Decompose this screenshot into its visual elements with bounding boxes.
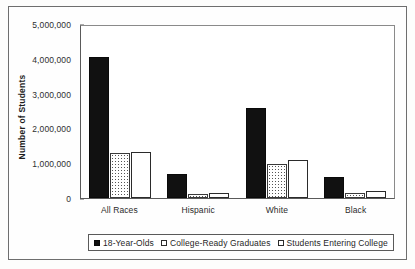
x-axis-tick-label: White bbox=[238, 205, 317, 215]
y-axis-tick-label: 5,000,000 bbox=[32, 20, 71, 30]
legend-item: Students Entering College bbox=[278, 238, 388, 248]
plot-area bbox=[80, 25, 395, 199]
y-axis-tick-labels: 5,000,0004,000,0003,000,0002,000,0001,00… bbox=[0, 25, 76, 199]
y-axis-tick-label: 4,000,000 bbox=[32, 55, 71, 65]
bar bbox=[89, 57, 109, 198]
bar bbox=[324, 177, 344, 198]
legend-swatch-icon bbox=[94, 240, 100, 246]
bar bbox=[345, 193, 365, 198]
y-axis-tick-label: 0 bbox=[66, 194, 71, 204]
x-axis-tick-labels: All RacesHispanicWhiteBlack bbox=[80, 205, 395, 215]
legend-label: 18-Year-Olds bbox=[103, 238, 154, 248]
chart-legend: 18-Year-OldsCollege-Ready GraduatesStude… bbox=[88, 234, 394, 251]
bar bbox=[366, 191, 386, 198]
x-axis-tick-label: Black bbox=[316, 205, 395, 215]
bar bbox=[110, 153, 130, 198]
legend-swatch-icon bbox=[278, 240, 284, 246]
bar bbox=[267, 164, 287, 198]
legend-label: College-Ready Graduates bbox=[170, 238, 271, 248]
bar-group bbox=[316, 26, 394, 198]
bar-group bbox=[238, 26, 316, 198]
legend-label: Students Entering College bbox=[287, 238, 388, 248]
legend-item: 18-Year-Olds bbox=[94, 238, 154, 248]
bar bbox=[246, 108, 266, 198]
bar bbox=[131, 152, 151, 198]
x-axis-tick-label: All Races bbox=[80, 205, 159, 215]
legend-item: College-Ready Graduates bbox=[161, 238, 271, 248]
bar bbox=[288, 160, 308, 198]
x-axis-tick-label: Hispanic bbox=[159, 205, 238, 215]
bar-group bbox=[81, 26, 159, 198]
chart-figure: Number of Students 5,000,0004,000,0003,0… bbox=[0, 0, 415, 269]
y-axis-tick-label: 3,000,000 bbox=[32, 90, 71, 100]
y-axis-tick-label: 1,000,000 bbox=[32, 159, 71, 169]
bar bbox=[167, 174, 187, 198]
bar bbox=[188, 194, 208, 198]
bar-groups bbox=[81, 26, 394, 198]
y-axis-tick-label: 2,000,000 bbox=[32, 124, 71, 134]
bar-group bbox=[159, 26, 237, 198]
bar bbox=[209, 193, 229, 198]
legend-swatch-icon bbox=[161, 240, 167, 246]
